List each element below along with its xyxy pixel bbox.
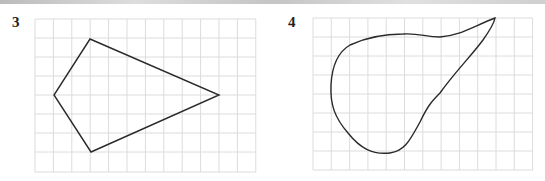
figure-3-grid	[35, 19, 256, 172]
figure-4-grid	[313, 18, 533, 170]
figure-4-curve	[331, 18, 495, 153]
figures-canvas	[0, 0, 545, 181]
